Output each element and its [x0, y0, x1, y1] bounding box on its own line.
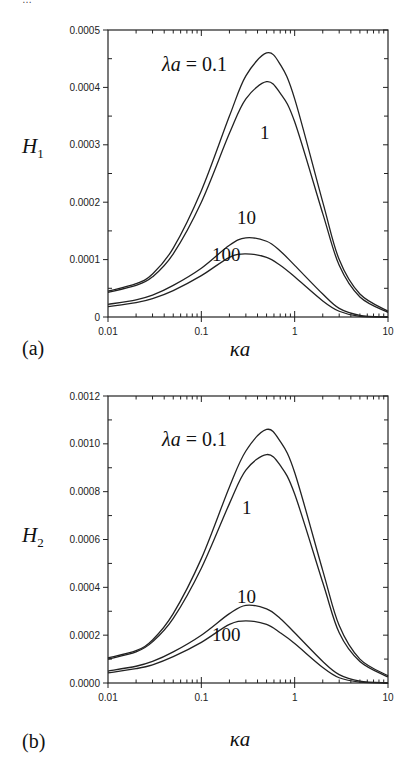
series-label: 100: [212, 624, 241, 645]
y-tick-label: 0.0004: [69, 582, 100, 593]
x-tick-label: 1: [292, 326, 298, 337]
y-axis-label: H1: [21, 134, 44, 161]
series-line: [108, 254, 388, 317]
series-line: [108, 429, 388, 676]
series-label: 1: [242, 497, 252, 518]
y-tick-label: 0: [94, 312, 100, 323]
y-tick-label: 0.0002: [69, 630, 100, 641]
x-tick-label: 0.01: [98, 692, 118, 703]
chart-panel-a: 0.010.111000.00010.00020.00030.00040.000…: [21, 25, 394, 362]
x-tick-label: 0.1: [194, 326, 208, 337]
x-tick-label: 1: [292, 692, 298, 703]
panel-label: (b): [22, 730, 45, 753]
series-line: [108, 455, 388, 678]
y-tick-label: 0.0000: [69, 678, 100, 689]
series-label: 100: [212, 244, 241, 265]
series-line: [108, 53, 388, 312]
series-line: [108, 82, 388, 313]
panel-label: (a): [22, 337, 44, 360]
y-tick-label: 0.0004: [69, 82, 100, 93]
y-tick-label: 0.0008: [69, 486, 100, 497]
series-label: 10: [237, 207, 256, 228]
y-axis-label: H2: [21, 523, 44, 550]
series-line: [108, 621, 388, 683]
x-tick-label: 10: [382, 326, 394, 337]
series-line: [108, 238, 388, 317]
series-label: λa = 0.1: [161, 53, 227, 75]
x-tick-label: 0.01: [98, 326, 118, 337]
x-axis-label: κa: [230, 337, 251, 361]
chart-panel-b: 0.010.11100.00000.00020.00040.00060.0008…: [21, 391, 394, 754]
y-tick-label: 0.0005: [69, 25, 100, 36]
x-tick-label: 0.1: [194, 692, 208, 703]
y-tick-label: 0.0006: [69, 534, 100, 545]
y-tick-label: 0.0003: [69, 139, 100, 150]
y-tick-label: 0.0012: [69, 391, 100, 402]
x-axis-label: κa: [230, 727, 251, 751]
y-tick-label: 0.0002: [69, 197, 100, 208]
y-tick-label: 0.0010: [69, 438, 100, 449]
series-label: 10: [237, 586, 256, 607]
series-label: λa = 0.1: [161, 428, 227, 450]
y-tick-label: 0.0001: [69, 254, 100, 265]
figure: 0.010.111000.00010.00020.00030.00040.000…: [0, 0, 411, 775]
series-label: 1: [260, 122, 270, 143]
x-tick-label: 10: [382, 692, 394, 703]
